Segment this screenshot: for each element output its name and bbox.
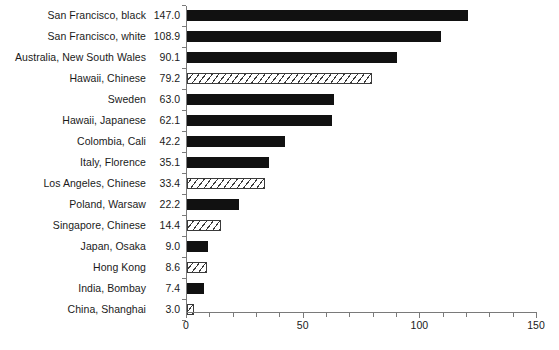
x-axis-tick-label: 150: [516, 319, 556, 331]
x-axis-minor-tick: [443, 313, 444, 317]
x-axis-minor-tick: [373, 313, 374, 317]
y-axis-tick: [182, 5, 186, 6]
y-axis-tick: [182, 89, 186, 90]
x-axis-major-tick: [419, 313, 420, 318]
y-axis-tick: [182, 173, 186, 174]
y-axis-tick: [182, 236, 186, 237]
y-axis-tick: [182, 278, 186, 279]
bar: [187, 10, 468, 21]
category-label: Singapore, Chinese: [0, 220, 146, 231]
category-label: Sweden: [0, 94, 146, 105]
category-label: Japan, Osaka: [0, 241, 146, 252]
x-axis-line: [186, 312, 537, 313]
y-axis-tick: [182, 299, 186, 300]
value-label: 108.9: [146, 31, 180, 42]
table-row: Sweden63.0: [0, 94, 559, 115]
table-row: San Francisco, white108.9: [0, 31, 559, 52]
y-axis-tick: [182, 152, 186, 153]
x-axis-tick-label: 50: [283, 319, 323, 331]
value-label: 14.4: [146, 220, 180, 231]
y-axis-tick: [182, 257, 186, 258]
table-row: Poland, Warsaw22.2: [0, 199, 559, 220]
y-axis-tick: [182, 131, 186, 132]
bar: [187, 283, 204, 294]
x-axis-tick-label: 0: [166, 319, 206, 331]
table-row: India, Bombay7.4: [0, 283, 559, 304]
value-label: 35.1: [146, 157, 180, 168]
table-row: Hawaii, Japanese62.1: [0, 115, 559, 136]
value-label: 62.1: [146, 115, 180, 126]
x-axis-minor-tick: [489, 313, 490, 317]
category-label: Colombia, Cali: [0, 136, 146, 147]
y-axis-line: [186, 6, 187, 312]
bar: [187, 304, 194, 315]
value-label: 7.4: [146, 283, 180, 294]
table-row: Los Angeles, Chinese33.4: [0, 178, 559, 199]
category-label: Hong Kong: [0, 262, 146, 273]
bar: [187, 157, 269, 168]
category-label: Poland, Warsaw: [0, 199, 146, 210]
table-row: Hawaii, Chinese79.2: [0, 73, 559, 94]
bar: [187, 262, 207, 273]
bar: [187, 178, 265, 189]
y-axis-tick: [182, 110, 186, 111]
value-label: 22.2: [146, 199, 180, 210]
table-row: Japan, Osaka9.0: [0, 241, 559, 262]
bar: [187, 199, 239, 210]
bar: [187, 136, 285, 147]
value-label: 63.0: [146, 94, 180, 105]
chart-rows: San Francisco, black147.0San Francisco, …: [0, 0, 559, 318]
category-label: China, Shanghai: [0, 304, 146, 315]
category-label: India, Bombay: [0, 283, 146, 294]
table-row: Italy, Florence35.1: [0, 157, 559, 178]
bar: [187, 220, 221, 231]
x-axis-minor-tick: [256, 313, 257, 317]
value-label: 79.2: [146, 73, 180, 84]
category-label: Hawaii, Japanese: [0, 115, 146, 126]
category-label: Italy, Florence: [0, 157, 146, 168]
bar: [187, 115, 332, 126]
bar: [187, 52, 397, 63]
x-axis-minor-tick: [513, 313, 514, 317]
y-axis-tick: [182, 215, 186, 216]
y-axis-tick: [182, 26, 186, 27]
bar-chart: San Francisco, black147.0San Francisco, …: [0, 0, 559, 350]
value-label: 42.2: [146, 136, 180, 147]
value-label: 33.4: [146, 178, 180, 189]
x-axis-tick-label: 100: [399, 319, 439, 331]
y-axis-tick: [182, 194, 186, 195]
value-label: 90.1: [146, 52, 180, 63]
category-label: Hawaii, Chinese: [0, 73, 146, 84]
y-axis-tick: [182, 47, 186, 48]
bar: [187, 241, 208, 252]
bar: [187, 31, 441, 42]
x-axis-minor-tick: [209, 313, 210, 317]
y-axis-tick: [182, 68, 186, 69]
value-label: 9.0: [146, 241, 180, 252]
table-row: San Francisco, black147.0: [0, 10, 559, 31]
value-label: 147.0: [146, 10, 180, 21]
x-axis-minor-tick: [396, 313, 397, 317]
bar: [187, 94, 334, 105]
value-label: 8.6: [146, 262, 180, 273]
table-row: Australia, New South Wales90.1: [0, 52, 559, 73]
x-axis-minor-tick: [326, 313, 327, 317]
x-axis-minor-tick: [279, 313, 280, 317]
category-label: San Francisco, black: [0, 10, 146, 21]
table-row: Hong Kong8.6: [0, 262, 559, 283]
category-label: San Francisco, white: [0, 31, 146, 42]
value-label: 3.0: [146, 304, 180, 315]
table-row: Singapore, Chinese14.4: [0, 220, 559, 241]
x-axis-major-tick: [186, 313, 187, 318]
table-row: Colombia, Cali42.2: [0, 136, 559, 157]
x-axis-major-tick: [303, 313, 304, 318]
x-axis-major-tick: [536, 313, 537, 318]
x-axis-minor-tick: [466, 313, 467, 317]
x-axis-minor-tick: [349, 313, 350, 317]
category-label: Los Angeles, Chinese: [0, 178, 146, 189]
bar: [187, 73, 372, 84]
category-label: Australia, New South Wales: [0, 52, 146, 63]
x-axis-minor-tick: [233, 313, 234, 317]
